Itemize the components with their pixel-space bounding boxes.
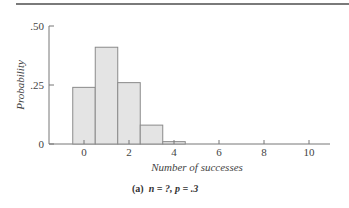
y-tick-label: 0 xyxy=(39,138,45,150)
bar-1 xyxy=(95,47,118,144)
y-ticks: 0.25.50 xyxy=(30,20,54,150)
bar-0 xyxy=(73,87,96,144)
bar-2 xyxy=(118,83,141,144)
y-tick-label: .50 xyxy=(30,20,44,32)
bar-3 xyxy=(140,125,163,144)
bars xyxy=(73,47,186,144)
caption-n: n = ?, xyxy=(149,183,173,194)
x-tick-label: 2 xyxy=(126,146,132,158)
caption-p: p = .3 xyxy=(175,183,198,194)
probability-histogram: 0.25.50 0246810 Number of successes Prob… xyxy=(0,0,349,208)
x-tick-label: 0 xyxy=(81,146,87,158)
y-tick-label: .25 xyxy=(30,79,44,91)
x-tick-label: 4 xyxy=(171,146,177,158)
x-tick-label: 8 xyxy=(261,146,267,158)
x-tick-label: 10 xyxy=(304,146,316,158)
x-tick-label: 6 xyxy=(216,146,222,158)
y-axis-title: Probability xyxy=(14,60,26,111)
caption-prefix: (a) xyxy=(132,183,144,194)
x-axis-title: Number of successes xyxy=(150,161,243,173)
